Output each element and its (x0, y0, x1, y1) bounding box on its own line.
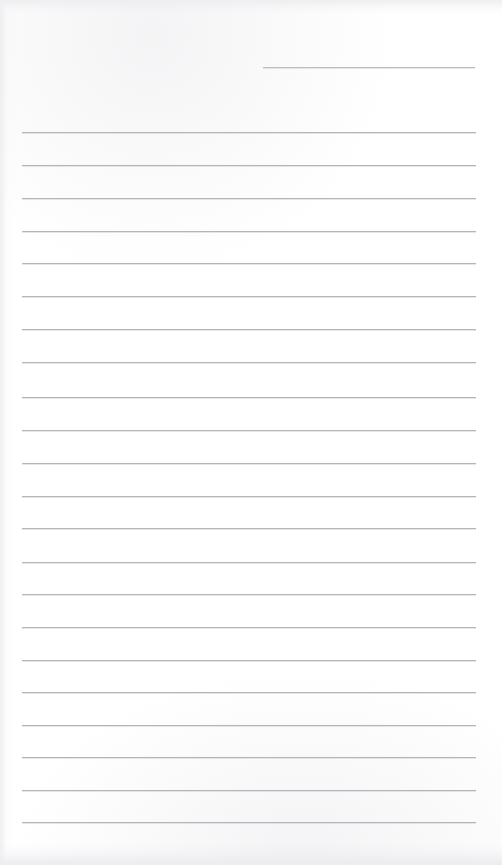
ruled-line (22, 627, 476, 628)
ruled-line (22, 562, 476, 563)
ruled-line (22, 757, 476, 758)
ruled-line (22, 296, 476, 297)
scan-bottom-edge (0, 853, 502, 865)
ruled-line (22, 528, 476, 529)
write-on-line-field[interactable] (22, 338, 476, 362)
write-on-line-field[interactable] (22, 538, 476, 562)
write-on-line-field[interactable] (22, 439, 476, 463)
write-on-line-field[interactable] (22, 373, 476, 397)
write-on-line-field[interactable] (22, 207, 476, 231)
write-on-line-field[interactable] (22, 668, 476, 692)
write-on-line-field[interactable] (22, 701, 476, 725)
write-on-line-field[interactable] (22, 141, 476, 165)
ruled-line (22, 397, 476, 398)
write-on-line-field[interactable] (22, 636, 476, 660)
write-on-line-field[interactable] (22, 798, 476, 822)
ruled-line (22, 725, 476, 726)
ruled-line (22, 231, 476, 232)
ruled-line (22, 790, 476, 791)
ruled-line (22, 594, 476, 595)
ruled-line (22, 263, 476, 264)
write-on-line-field[interactable] (22, 108, 476, 132)
write-on-line-field[interactable] (22, 766, 476, 790)
write-on-line-field[interactable] (22, 305, 476, 329)
ruled-line (22, 198, 476, 199)
ruled-line (22, 692, 476, 693)
write-on-line-field[interactable] (22, 504, 476, 528)
write-on-line-field[interactable] (22, 406, 476, 430)
write-on-line-field[interactable] (22, 239, 476, 263)
header-entry-field[interactable] (263, 47, 475, 67)
ruled-line (22, 329, 476, 330)
write-on-line-field[interactable] (22, 472, 476, 496)
write-on-line-field[interactable] (22, 570, 476, 594)
ruled-line (22, 822, 476, 823)
write-on-line-field[interactable] (22, 733, 476, 757)
header-rule-line (263, 67, 475, 68)
ruled-line (22, 362, 476, 363)
ruled-line (22, 496, 476, 497)
scan-top-edge (0, 0, 502, 7)
document-page (0, 0, 502, 865)
ruled-line (22, 165, 476, 166)
ruled-line (22, 660, 476, 661)
ruled-line (22, 132, 476, 133)
write-on-line-field[interactable] (22, 174, 476, 198)
ruled-line (22, 463, 476, 464)
write-on-line-field[interactable] (22, 272, 476, 296)
write-on-line-field[interactable] (22, 603, 476, 627)
ruled-line (22, 430, 476, 431)
